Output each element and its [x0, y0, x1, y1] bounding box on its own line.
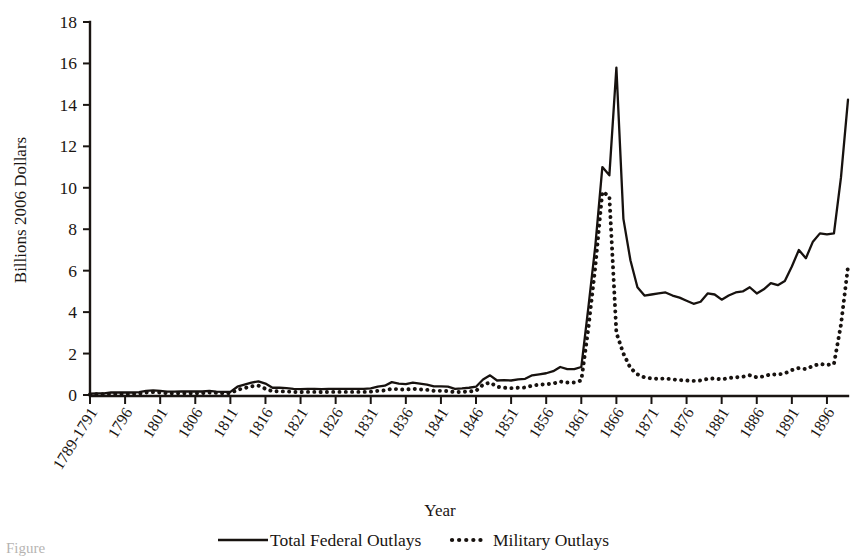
x-tick-label-1886: 1886: [736, 405, 767, 441]
x-tick-label-1866: 1866: [596, 405, 627, 441]
y-tick-label-6: 6: [68, 261, 77, 281]
y-axis-title: Billions 2006 Dollars: [11, 137, 30, 283]
x-tick-label-group: 1789-17911796180118061811181618211826183…: [49, 405, 837, 473]
x-tick-label-1816: 1816: [245, 405, 276, 441]
figure-caption-partial: Figure: [6, 540, 45, 557]
legend-label-total-federal-outlays: Total Federal Outlays: [270, 530, 422, 550]
y-tick-label-0: 0: [68, 385, 77, 405]
x-tick-label-1836: 1836: [385, 405, 416, 441]
x-tick-label-1876: 1876: [666, 405, 697, 441]
y-tick-label-2: 2: [68, 344, 77, 364]
y-tick-label-16: 16: [60, 53, 78, 73]
x-tick-label-1851: 1851: [490, 405, 521, 441]
x-tick-label-1801: 1801: [139, 405, 170, 441]
x-axis-title: Year: [424, 501, 456, 520]
legend-label-military-outlays: Military Outlays: [493, 530, 609, 550]
y-tick-label-18: 18: [60, 12, 78, 32]
x-tick-label-1841: 1841: [420, 405, 451, 441]
x-tick-label-1856: 1856: [525, 405, 556, 441]
series-total-federal-outlays: [90, 68, 848, 394]
x-tick-label-1796: 1796: [104, 405, 135, 441]
y-tick-label-14: 14: [60, 95, 78, 115]
x-tick-label-1881: 1881: [701, 405, 732, 441]
y-axis-group: 024681012141618 Billions 2006 Dollars: [11, 12, 90, 405]
legend: Total Federal Outlays Military Outlays: [218, 530, 609, 550]
x-tick-label-1891: 1891: [771, 405, 802, 441]
chart-figure: 024681012141618 Billions 2006 Dollars 17…: [0, 0, 859, 560]
outlays-line-chart: 024681012141618 Billions 2006 Dollars 17…: [0, 0, 859, 560]
x-tick-label-1821: 1821: [280, 405, 311, 441]
x-tick-label-1831: 1831: [350, 405, 381, 441]
x-tick-label-1846: 1846: [455, 405, 486, 441]
x-tick-label-1826: 1826: [315, 405, 346, 441]
x-tick-label-1789-1791: 1789-1791: [49, 405, 100, 473]
x-tick-label-1871: 1871: [631, 405, 662, 441]
x-tick-label-1806: 1806: [174, 405, 205, 441]
x-axis-group: 1789-17911796180118061811181618211826183…: [49, 396, 848, 520]
y-tick-label-8: 8: [68, 219, 77, 239]
plot-series-group: [90, 68, 848, 395]
x-tick-label-1811: 1811: [210, 405, 241, 441]
x-tick-label-1861: 1861: [560, 405, 591, 441]
y-tick-label-10: 10: [60, 178, 78, 198]
y-tick-label-12: 12: [60, 136, 78, 156]
y-tick-group: 024681012141618: [60, 12, 91, 405]
y-tick-label-4: 4: [68, 302, 77, 322]
x-tick-label-1896: 1896: [806, 405, 837, 441]
